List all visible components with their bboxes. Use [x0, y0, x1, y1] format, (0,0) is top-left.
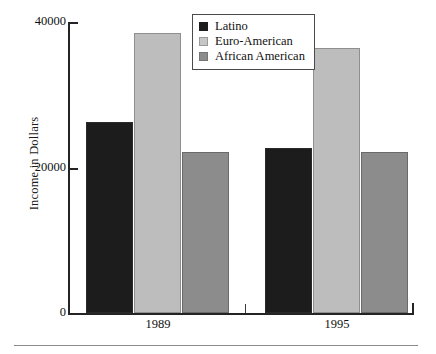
chart-legend: Latino Euro-American African American [192, 14, 315, 70]
bar-chart-figure: Income in Dollars 40000 20000 0 1989 199… [0, 0, 436, 354]
legend-item-african-american[interactable]: African American [199, 49, 305, 64]
bar-african-american-1989 [182, 152, 229, 313]
bar-latino-1989 [86, 122, 133, 313]
legend-label-latino: Latino [215, 20, 248, 33]
legend-item-euro-american[interactable]: Euro-American [199, 34, 305, 49]
legend-swatch-euro-american [199, 37, 208, 46]
bottom-rule [14, 345, 418, 346]
legend-item-latino[interactable]: Latino [199, 19, 305, 34]
legend-label-euro-american: Euro-American [215, 35, 293, 48]
x-group-label-1989: 1989 [118, 317, 198, 332]
legend-swatch-latino [199, 22, 208, 31]
bar-euro-american-1995 [313, 48, 360, 313]
legend-label-african-american: African American [215, 50, 305, 63]
legend-swatch-african-american [199, 52, 208, 61]
x-group-label-1995: 1995 [297, 317, 377, 332]
bar-latino-1995 [265, 148, 312, 313]
bar-african-american-1995 [361, 152, 408, 313]
bar-euro-american-1989 [134, 33, 181, 313]
